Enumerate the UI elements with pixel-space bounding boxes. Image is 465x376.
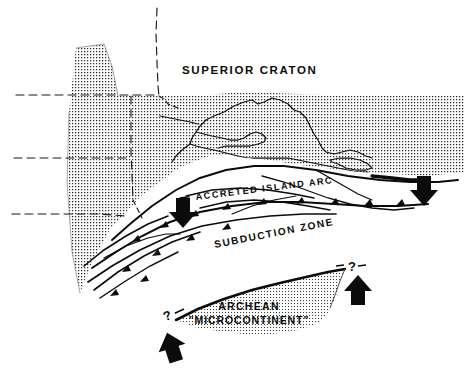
query-right-dash-left — [336, 265, 344, 266]
query-right-dash-right — [358, 265, 366, 266]
query-right-mark: ? — [348, 259, 356, 274]
label-archean: ARCHEAN — [218, 300, 280, 312]
block-diagram-figure: ? ? SUPERIOR CRATON ACCRETED ISLAND ARC … — [0, 0, 465, 376]
diagram-canvas: ? ? SUPERIOR CRATON ACCRETED ISLAND ARC … — [0, 0, 465, 376]
label-microcontinent: "MICROCONTINENT" — [189, 314, 310, 326]
label-superior-craton: SUPERIOR CRATON — [182, 64, 317, 76]
